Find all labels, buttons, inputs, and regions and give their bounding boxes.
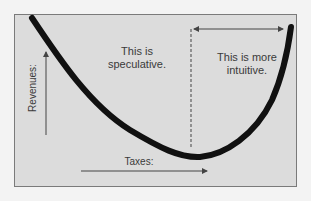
- revenues-axis-label: Revenues:: [27, 64, 38, 112]
- speculative-region-label: This is speculative.: [92, 45, 182, 71]
- intuitive-region-label: This is more intuitive.: [207, 51, 287, 77]
- taxes-axis-label: Taxes:: [114, 155, 164, 168]
- diagram-graphics: [0, 0, 311, 201]
- revenue-curve: [32, 18, 291, 157]
